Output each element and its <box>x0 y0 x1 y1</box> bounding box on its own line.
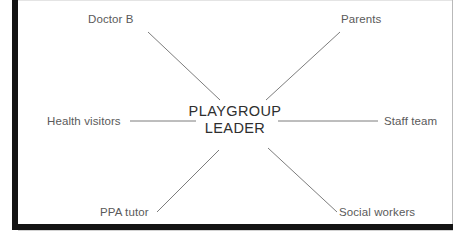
center-node-line-1: PLAYGROUP <box>189 103 282 119</box>
node-label-health-visitors: Health visitors <box>47 114 121 128</box>
node-label-ppa-tutor: PPA tutor <box>100 205 149 219</box>
node-label-parents: Parents <box>341 12 381 26</box>
connector-social-workers <box>268 148 337 212</box>
center-node-line-2: LEADER <box>185 120 285 137</box>
center-node-playgroup-leader: PLAYGROUP LEADER <box>185 103 285 137</box>
connector-doctor-b <box>148 32 220 100</box>
connector-parents <box>266 32 340 100</box>
node-label-social-workers: Social workers <box>339 205 415 219</box>
scanned-page: PLAYGROUP LEADER Doctor B Parents Health… <box>0 0 470 241</box>
node-label-staff-team: Staff team <box>384 114 437 128</box>
node-label-doctor-b: Doctor B <box>88 12 134 26</box>
connector-ppa-tutor <box>157 150 219 212</box>
